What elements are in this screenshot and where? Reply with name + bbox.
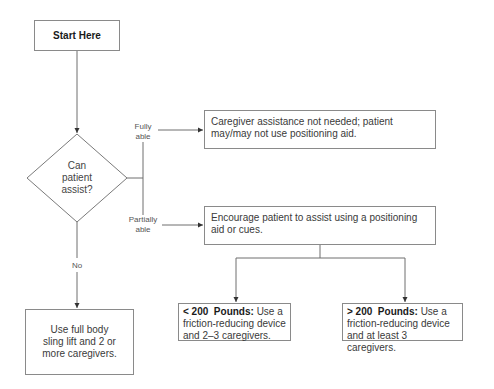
under-200-node: < 200 Pounds: Use a friction-reducing de… [178, 303, 291, 341]
fully-able-result-node: Caregiver assistance not needed; patient… [204, 110, 436, 149]
fully-line-1: Fully [128, 122, 158, 132]
over-200-heading: > 200 Pounds: [347, 306, 418, 317]
start-label: Start Here [53, 30, 101, 42]
partially-line-2: able [124, 225, 162, 235]
partially-line-1: Partially [124, 215, 162, 225]
decision-line-1: Can [47, 160, 107, 172]
no-result-text: Use full body sling lift and 2 or more c… [40, 324, 119, 360]
decision-line-2: patient [47, 172, 107, 184]
decision-line-3: assist? [47, 184, 107, 196]
partially-able-result-node: Encourage patient to assist using a posi… [204, 206, 436, 245]
no-result-node: Use full body sling lift and 2 or more c… [25, 309, 134, 375]
edge-label-partially-able: Partially able [124, 215, 162, 235]
partially-able-result-text: Encourage patient to assist using a posi… [211, 212, 417, 235]
edge-label-fully-able: Fully able [128, 122, 158, 142]
start-node: Start Here [34, 20, 120, 51]
under-200-heading: < 200 Pounds: [183, 306, 254, 317]
no-text: No [72, 261, 82, 270]
decision-label: Can patient assist? [47, 160, 107, 196]
over-200-node: > 200 Pounds: Use a friction-reducing de… [342, 303, 463, 341]
edge-label-no: No [67, 261, 87, 271]
fully-line-2: able [128, 132, 158, 142]
fully-able-result-text: Caregiver assistance not needed; patient… [211, 116, 393, 139]
